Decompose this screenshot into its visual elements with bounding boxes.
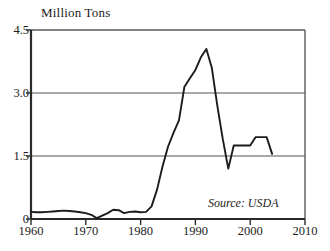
chart-plot-area (0, 0, 330, 251)
data-series-line (31, 49, 272, 218)
x-tick-label: 1970 (64, 224, 108, 238)
chart-container: Million Tons 01.53.04.5 1960197019801990… (0, 0, 330, 251)
x-tick-label: 2010 (283, 224, 327, 238)
x-axis-labels: 196019701980199020002010 (0, 222, 330, 246)
plot-frame (31, 30, 305, 219)
x-tick-label: 1990 (173, 224, 217, 238)
x-tick-label: 1960 (9, 224, 53, 238)
source-annotation: Source: USDA (208, 197, 279, 210)
x-tick-label: 1980 (119, 224, 163, 238)
x-tick-label: 2000 (228, 224, 272, 238)
